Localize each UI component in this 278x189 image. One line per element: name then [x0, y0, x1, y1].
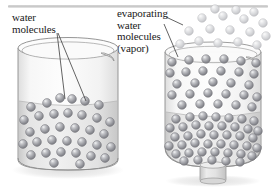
evaporation-figure: water molecules evaporating water molecu… — [0, 0, 278, 189]
beaker-room-temperature — [12, 33, 124, 179]
beaker-heated — [164, 5, 270, 187]
figure-artwork — [0, 0, 278, 189]
heat-source — [200, 162, 226, 184]
